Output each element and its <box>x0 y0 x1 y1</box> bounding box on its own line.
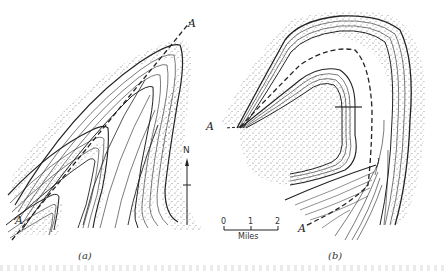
axis-label-b-bottom: A <box>298 222 306 235</box>
axis-label-b-left: A <box>206 120 214 133</box>
caption-b: (b) <box>328 250 342 261</box>
panel-a <box>6 22 205 240</box>
axis-label-a-bottom: A <box>15 214 23 227</box>
caption-a: (a) <box>78 250 92 261</box>
scale-tick-0: 0 <box>221 217 226 226</box>
scale-unit: Miles <box>238 232 258 241</box>
scale-bar <box>224 226 278 230</box>
scale-tick-1: 1 <box>248 217 253 226</box>
cropped-caption-text-strip <box>0 265 445 271</box>
fold-map-figure <box>0 0 445 271</box>
north-label: N <box>183 145 190 155</box>
scale-tick-2: 2 <box>275 217 280 226</box>
panel-b <box>220 11 426 240</box>
axis-label-a-top: A <box>188 17 196 30</box>
